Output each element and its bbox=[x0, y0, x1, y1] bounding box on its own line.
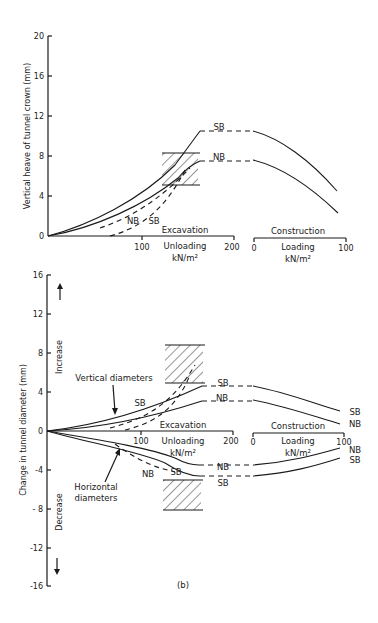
b-unloading-label: Unloading bbox=[162, 436, 205, 446]
a-label-nb: NB bbox=[213, 152, 225, 162]
increase-label: Increase bbox=[55, 340, 64, 374]
a-label-sb: SB bbox=[213, 122, 224, 132]
b-label-vertical-nb: NB bbox=[216, 393, 228, 403]
b-label-horizontal-sb-measured: SB bbox=[170, 467, 181, 477]
a-ytick-20: 20 bbox=[34, 32, 44, 41]
b-label-horizontal-nb: NB bbox=[217, 462, 229, 472]
a-label-sb-measured: SB bbox=[148, 216, 159, 226]
a-ytick-12: 12 bbox=[34, 112, 44, 121]
horizontal-callout-arrow-icon bbox=[105, 448, 120, 482]
decrease-arrow-icon bbox=[54, 558, 60, 575]
figure: 0 4 8 12 16 20 Vertical heave of tunnel … bbox=[0, 0, 378, 623]
a-ytick-4: 4 bbox=[39, 192, 44, 201]
b-ytick-m4: -4 bbox=[35, 466, 43, 475]
b-label-vertical-sb: SB bbox=[217, 378, 228, 388]
b-hatched-range-horizontal bbox=[163, 480, 201, 510]
a-curve-nb-construction bbox=[253, 160, 338, 213]
b-ctick-0: 0 bbox=[250, 438, 255, 447]
a-ctick-100: 100 bbox=[338, 244, 353, 253]
b-ytick-8: 8 bbox=[38, 349, 43, 358]
a-xtick-200: 200 bbox=[224, 243, 239, 252]
b-unit-label: kN/m² bbox=[170, 448, 196, 458]
b-ytick-12: 12 bbox=[33, 310, 43, 319]
a-ytick-8: 8 bbox=[39, 152, 44, 161]
b-vertical-sb-construction bbox=[253, 386, 340, 411]
a-unit2-label: kN/m² bbox=[285, 254, 311, 264]
increase-arrow-icon bbox=[57, 283, 63, 300]
b-label-horizontal-nb-end: NB bbox=[349, 445, 361, 455]
a-ytick-0: 0 bbox=[39, 232, 44, 241]
b-y-label: Change in tunnel diameter (mm) bbox=[19, 364, 28, 496]
b-excavation-label: Excavation bbox=[160, 420, 207, 430]
decrease-label: Decrease bbox=[55, 493, 64, 531]
a-y-label: Vertical heave of tunnel crown (mm) bbox=[23, 63, 32, 209]
b-label-horizontal-sb-end: SB bbox=[349, 455, 360, 465]
horizontal-diameters-label-1: Horizontal bbox=[74, 482, 117, 492]
a-excavation-label: Excavation bbox=[162, 225, 209, 235]
b-label-vertical-sb-measured: SB bbox=[134, 398, 145, 408]
b-ytick-0: 0 bbox=[38, 427, 43, 436]
a-construction-label: Construction bbox=[271, 226, 325, 236]
b-label-vertical-nb-end: NB bbox=[349, 419, 361, 429]
a-curve-sb-construction bbox=[253, 131, 337, 191]
b-ytick-m8: - 8 bbox=[32, 505, 43, 514]
a-unit-label: kN/m² bbox=[172, 253, 198, 263]
panel-label-b: (b) bbox=[177, 580, 189, 590]
b-loading-label: Loading bbox=[281, 436, 315, 446]
b-ytick-16: 16 bbox=[33, 271, 43, 280]
a-unloading-label: Unloading bbox=[164, 241, 207, 251]
vertical-callout-arrow-icon bbox=[112, 385, 118, 415]
b-label-horizontal-sb: SB bbox=[217, 478, 228, 488]
vertical-diameters-label: Vertical diameters bbox=[75, 373, 153, 383]
a-label-nb-measured: NB bbox=[127, 216, 139, 226]
a-xtick-100: 100 bbox=[134, 243, 149, 252]
b-ytick-m12: -12 bbox=[30, 544, 43, 553]
b-label-vertical-sb-end: SB bbox=[349, 407, 360, 417]
a-loading-label: Loading bbox=[281, 242, 315, 252]
b-construction-label: Construction bbox=[271, 421, 325, 431]
a-ytick-16: 16 bbox=[34, 72, 44, 81]
a-ctick-0: 0 bbox=[251, 244, 256, 253]
horizontal-diameters-label-2: diameters bbox=[75, 493, 119, 503]
b-hatched-range-vertical bbox=[165, 345, 203, 383]
chart-a: 0 4 8 12 16 20 Vertical heave of tunnel … bbox=[23, 32, 354, 264]
b-label-horizontal-nb-measured: NB bbox=[142, 469, 154, 479]
b-xtick-200: 200 bbox=[223, 437, 238, 446]
b-ytick-m16: -16 bbox=[30, 582, 43, 591]
chart-b: 16 12 8 4 0 -4 - 8 -12 -16 Change in tun… bbox=[19, 271, 361, 591]
b-xtick-100: 100 bbox=[133, 437, 148, 446]
b-horizontal-sb-construction bbox=[253, 458, 340, 476]
b-horizontal-measured bbox=[115, 444, 175, 472]
b-ytick-4: 4 bbox=[38, 388, 43, 397]
